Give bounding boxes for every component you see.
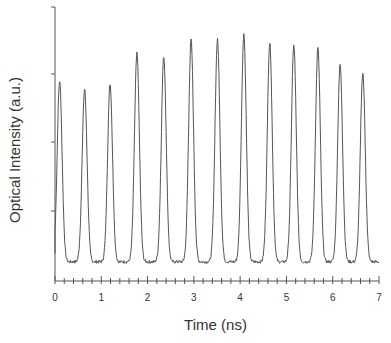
x-tick-label: 5 — [284, 292, 290, 303]
x-axis-label: Time (ns) — [0, 316, 391, 333]
x-tick-label: 6 — [330, 292, 336, 303]
x-tick-label: 2 — [145, 292, 151, 303]
x-tick-label: 0 — [52, 292, 58, 303]
y-axis-label: Optical Intensity (a.u.) — [6, 140, 23, 160]
x-tick-labels: 01234567 — [52, 292, 382, 303]
x-tick-label: 4 — [237, 292, 243, 303]
y-ticks — [51, 7, 55, 211]
x-tick-label: 3 — [191, 292, 197, 303]
intensity-trace — [55, 34, 379, 264]
x-ticks — [55, 276, 379, 284]
pulse-train-chart: 01234567 — [0, 0, 391, 343]
x-tick-label: 1 — [99, 292, 105, 303]
x-tick-label: 7 — [376, 292, 382, 303]
